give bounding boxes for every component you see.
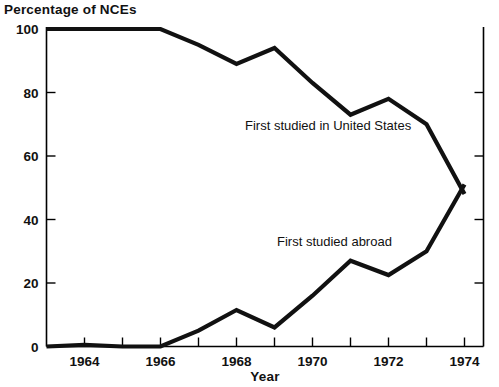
axes xyxy=(47,27,484,347)
x-tick-label: 1970 xyxy=(297,354,327,369)
y-tick-label: 60 xyxy=(23,149,38,164)
series-annotation-abroad: First studied abroad xyxy=(277,234,392,249)
y-axis-title: Percentage of NCEs xyxy=(4,2,137,17)
x-tick-label: 1974 xyxy=(449,354,480,369)
y-tick-label: 20 xyxy=(23,276,38,291)
y-tick-label: 0 xyxy=(31,340,39,355)
x-axis-title: Year xyxy=(250,369,280,384)
chart-container: Percentage of NCEs 020406080100 19641966… xyxy=(0,0,499,387)
x-tick-label: 1968 xyxy=(221,354,252,369)
series-group xyxy=(47,29,465,347)
x-axis-tick-labels: 196419661968197019721974 xyxy=(69,354,480,369)
series-line-first-studied-abroad xyxy=(47,185,465,347)
x-tick-label: 1972 xyxy=(373,354,403,369)
y-axis-ticks xyxy=(47,93,56,284)
x-tick-label: 1964 xyxy=(69,354,100,369)
line-chart: Percentage of NCEs 020406080100 19641966… xyxy=(0,0,499,387)
y-tick-label: 100 xyxy=(16,22,39,37)
x-tick-label: 1966 xyxy=(145,354,176,369)
series-annotation-united-states: First studied in United States xyxy=(245,118,412,133)
y-tick-label: 40 xyxy=(23,213,38,228)
y-axis-tick-labels: 020406080100 xyxy=(16,22,39,355)
series-line-first-studied-in-united-states xyxy=(47,29,465,194)
y-tick-label: 80 xyxy=(23,86,38,101)
right-axis-ticks xyxy=(475,93,484,284)
